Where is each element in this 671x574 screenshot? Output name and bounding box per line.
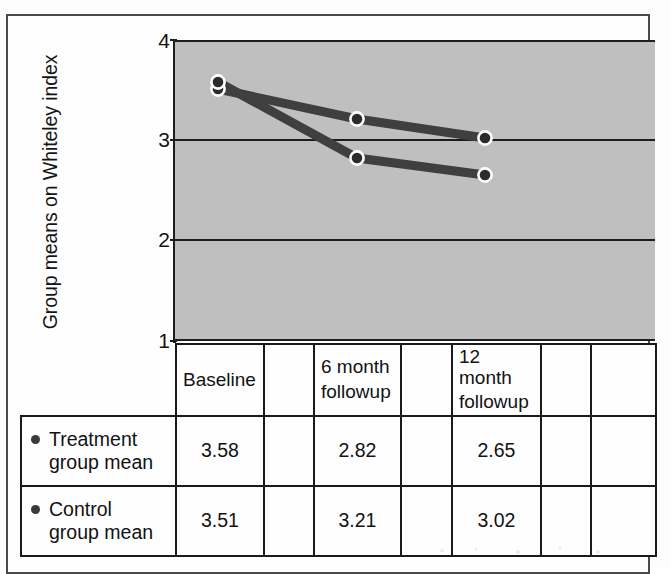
- row-label-treatment-text: Treatment group mean: [49, 428, 153, 474]
- marker-treatment-12month: [478, 168, 491, 181]
- header-cell-gap-2: [401, 344, 452, 416]
- row-label-control-line2: group mean: [49, 521, 153, 544]
- row-label-treatment-line1: Treatment: [49, 428, 153, 451]
- row-label-cell-control: Control group mean: [21, 486, 176, 556]
- header-cell-gap-3: [541, 344, 591, 416]
- header-cell-label: [21, 344, 176, 416]
- marker-control-6month: [350, 112, 363, 125]
- header-cell-gap-4: [591, 344, 656, 416]
- header-gap-1-text: [265, 378, 313, 382]
- cell-treatment-gap-4: [591, 416, 656, 486]
- header-gap-3-text: [542, 378, 590, 382]
- header-12month-line1: 12 month: [453, 345, 540, 390]
- marker-treatment-6month: [350, 151, 363, 164]
- row-label-control-line1: Control: [49, 498, 153, 521]
- legend-dot-icon-treatment: [31, 435, 40, 444]
- cell-control-baseline: 3.51: [176, 486, 264, 556]
- header-cell-12month: 12 month followup: [452, 344, 541, 416]
- header-baseline-text: Baseline: [177, 368, 263, 393]
- header-6month-line2: followup: [315, 380, 400, 405]
- row-label-control: Control group mean: [22, 498, 175, 544]
- header-cell-6month: 6 month followup: [314, 344, 401, 416]
- y-axis-title: Group means on Whiteley index: [39, 32, 67, 352]
- row-label-control-text: Control group mean: [49, 498, 153, 544]
- cell-treatment-gap-2: [401, 416, 452, 486]
- cell-treatment-gap-3: [541, 416, 591, 486]
- cell-control-gap-1: [264, 486, 314, 556]
- header-6month-line1: 6 month: [315, 355, 400, 380]
- cell-treatment-gap-1: [264, 416, 314, 486]
- cell-treatment-baseline: 3.58: [176, 416, 264, 486]
- table-row-treatment: Treatment group mean 3.58 2.82 2.65: [21, 416, 656, 486]
- y-tick-label-2: 2: [144, 229, 170, 250]
- header-cell-baseline: Baseline: [176, 344, 264, 416]
- header-gap-2-text: [402, 378, 451, 382]
- header-12month-line2: followup: [453, 390, 540, 415]
- y-tick-label-4: 4: [144, 30, 170, 51]
- cell-control-6month: 3.21: [314, 486, 401, 556]
- series-lines-and-markers: [175, 40, 655, 341]
- marker-control-12month: [478, 131, 491, 144]
- scan-artifact: [430, 543, 640, 559]
- table-header-row: Baseline 6 month followup 12 month follo…: [21, 344, 656, 416]
- cell-treatment-12month: 2.65: [452, 416, 541, 486]
- header-cell-gap-1: [264, 344, 314, 416]
- row-label-treatment: Treatment group mean: [22, 428, 175, 474]
- plot-area: [175, 40, 655, 341]
- y-tick-label-3: 3: [144, 129, 170, 150]
- legend-dot-icon-control: [31, 505, 40, 514]
- cell-treatment-6month: 2.82: [314, 416, 401, 486]
- marker-treatment-baseline: [211, 75, 224, 88]
- row-label-cell-treatment: Treatment group mean: [21, 416, 176, 486]
- row-label-treatment-line2: group mean: [49, 451, 153, 474]
- data-table: Baseline 6 month followup 12 month follo…: [20, 343, 657, 557]
